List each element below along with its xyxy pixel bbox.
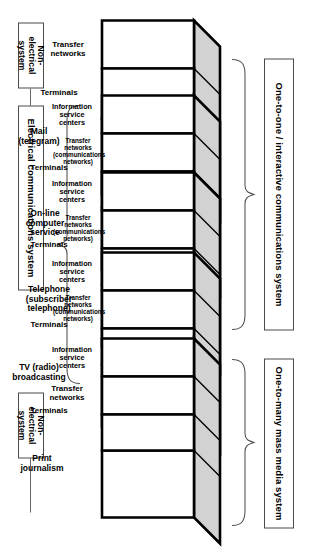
- label-one-to-one-system-text: One-to-one / interactive communications …: [274, 82, 285, 306]
- block-print-panel-transfer-networks: Transfer networks: [42, 384, 92, 402]
- brace-electrical-communications-system: [56, 102, 82, 386]
- label-one-to-one-system: One-to-one / interactive communications …: [264, 58, 294, 330]
- label-electrical-communications-system-text: Electrical communications system: [26, 118, 37, 277]
- brace-one-to-many-group: [230, 356, 256, 528]
- block-mail-panel-transfer-networks: Transfer networks: [38, 40, 98, 58]
- label-non-electrical-system-top-text: Non- electrical system: [17, 26, 46, 84]
- brace-one-to-one-group: [230, 56, 256, 332]
- label-electrical-communications-system: Electrical communications system: [18, 105, 44, 290]
- connector-non-electrical-bottom: [30, 458, 31, 512]
- label-one-to-many-system: One-to-many mass media system: [264, 358, 294, 528]
- label-one-to-many-system-text: One-to-many mass media system: [274, 366, 285, 520]
- label-non-electrical-system-bottom: Non- electrical system: [18, 392, 44, 458]
- diagram-canvas: Non- electrical system Electrical commun…: [0, 0, 312, 553]
- label-non-electrical-system-bottom-text: Non- electrical system: [17, 396, 46, 454]
- block-mail-panel-terminals: Terminals: [28, 88, 90, 97]
- label-non-electrical-system-top: Non- electrical system: [18, 22, 44, 88]
- block-print-journalism: Information service centers Transfer net…: [90, 338, 220, 543]
